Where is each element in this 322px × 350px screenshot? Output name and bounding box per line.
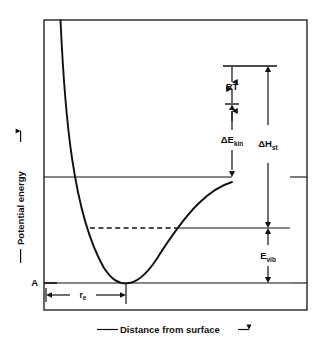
- x-axis-label-text: Distance from surface: [120, 324, 220, 335]
- figure-background: [0, 0, 322, 350]
- rt-label: RT: [226, 81, 239, 92]
- potential-energy-diagram: RT ΔEkin ΔHst Evib A re: [0, 0, 322, 350]
- point-a-label: A: [31, 277, 38, 288]
- y-axis-label-text: Potential energy: [15, 170, 26, 245]
